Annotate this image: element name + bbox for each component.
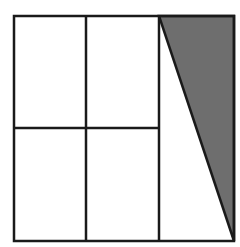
geometry-diagram	[0, 0, 240, 247]
